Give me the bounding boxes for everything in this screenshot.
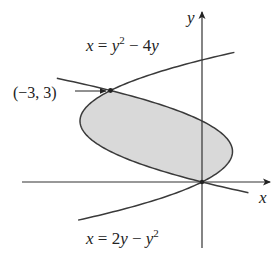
- curve-top-label: x = y2 − 4y: [85, 34, 159, 55]
- origin-point: [200, 180, 204, 184]
- y-axis-label: y: [185, 8, 195, 27]
- diagram: (−3, 3) x = y2 − 4y x = 2y − y2 x y: [0, 0, 274, 266]
- intersection-point-neg3-3: [108, 88, 113, 93]
- x-axis-label: x: [258, 188, 267, 207]
- curve-bottom-label: x = 2y − y2: [85, 227, 159, 248]
- region-plot: (−3, 3) x = y2 − 4y x = 2y − y2 x y: [0, 0, 274, 266]
- shaded-region: [80, 91, 233, 183]
- point-label: (−3, 3): [13, 84, 57, 102]
